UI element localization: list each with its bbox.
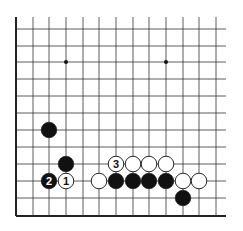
star-point-icon <box>164 60 168 64</box>
stone-icon <box>191 173 207 189</box>
white-stone <box>141 156 157 172</box>
white-stone-move-3: 3 <box>108 156 124 172</box>
stone-icon <box>175 173 191 189</box>
black-stone <box>108 173 124 189</box>
stone-icon <box>141 156 157 172</box>
stone-icon <box>175 190 191 206</box>
white-stone <box>191 173 207 189</box>
stone-icon <box>125 173 141 189</box>
white-stone <box>91 173 107 189</box>
move-number-label: 2 <box>46 175 52 187</box>
white-stone <box>125 156 141 172</box>
stone-icon <box>158 173 174 189</box>
white-stone <box>175 173 191 189</box>
black-stone <box>58 156 74 172</box>
black-stone <box>41 122 57 138</box>
white-stone <box>158 156 174 172</box>
stone-icon <box>125 156 141 172</box>
black-stone <box>175 190 191 206</box>
black-stone <box>141 173 157 189</box>
star-point-icon <box>64 60 68 64</box>
move-number-label: 1 <box>63 175 69 187</box>
white-stone-move-1: 1 <box>58 173 74 189</box>
stone-icon <box>108 173 124 189</box>
stone-icon <box>91 173 107 189</box>
stone-icon <box>58 156 74 172</box>
black-stone-move-2: 2 <box>41 173 57 189</box>
stone-icon <box>41 122 57 138</box>
black-stone <box>125 173 141 189</box>
stone-icon <box>141 173 157 189</box>
go-board: 213 <box>0 0 243 231</box>
black-stone <box>158 173 174 189</box>
move-number-label: 3 <box>113 158 119 170</box>
stone-icon <box>158 156 174 172</box>
